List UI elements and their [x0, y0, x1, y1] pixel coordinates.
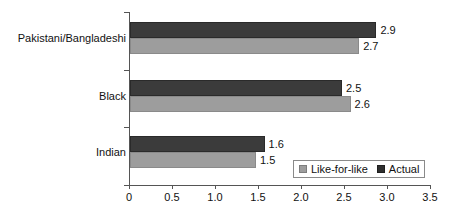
- x-axis-tick: [387, 185, 388, 189]
- legend-item-like-for-like: Like-for-like: [299, 163, 368, 175]
- y-axis-tick: [124, 12, 129, 13]
- x-axis-line: [129, 185, 431, 186]
- legend-label-like-for-like: Like-for-like: [311, 163, 368, 175]
- bar-likeforlike: [130, 152, 256, 168]
- y-axis-tick: [124, 127, 129, 128]
- x-axis-tick: [215, 185, 216, 189]
- category-label: Indian: [96, 146, 126, 159]
- bar-actual: [130, 136, 265, 152]
- legend-item-actual: Actual: [377, 163, 420, 175]
- bar-likeforlike: [130, 38, 359, 54]
- bar-actual: [130, 80, 342, 96]
- category-label: Black: [99, 90, 126, 103]
- x-axis-tick-label: 2.5: [324, 191, 364, 204]
- bar-chart: 00.51.01.52.02.53.03.5 Pakistani/Banglad…: [0, 0, 452, 216]
- x-axis-tick: [344, 185, 345, 189]
- x-axis-tick-label: 0: [109, 191, 149, 204]
- bar-value-label: 1.6: [269, 138, 284, 151]
- x-axis-tick: [172, 185, 173, 189]
- bar-value-label: 2.9: [380, 24, 395, 37]
- legend-swatch-actual: [377, 165, 385, 173]
- bar-likeforlike: [130, 96, 351, 112]
- bar-value-label: 2.5: [346, 82, 361, 95]
- legend-label-actual: Actual: [389, 163, 420, 175]
- bar-value-label: 2.7: [363, 40, 378, 53]
- x-axis-tick: [258, 185, 259, 189]
- bar-value-label: 1.5: [260, 154, 275, 167]
- y-axis-tick: [124, 185, 129, 186]
- bar-actual: [130, 22, 376, 38]
- category-label: Pakistani/Bangladeshi: [18, 32, 126, 45]
- chart-legend: Like-for-like Actual: [293, 160, 425, 178]
- legend-swatch-like-for-like: [299, 165, 307, 173]
- x-axis-tick-label: 0.5: [152, 191, 192, 204]
- bar-value-label: 2.6: [355, 98, 370, 111]
- x-axis-tick-label: 2.0: [281, 191, 321, 204]
- x-axis-tick-label: 1.0: [195, 191, 235, 204]
- y-axis-tick: [124, 70, 129, 71]
- x-axis-tick-label: 3.0: [367, 191, 407, 204]
- x-axis-tick-label: 1.5: [238, 191, 278, 204]
- x-axis-tick: [129, 185, 130, 189]
- x-axis-tick: [430, 185, 431, 189]
- x-axis-tick-label: 3.5: [410, 191, 450, 204]
- x-axis-tick: [301, 185, 302, 189]
